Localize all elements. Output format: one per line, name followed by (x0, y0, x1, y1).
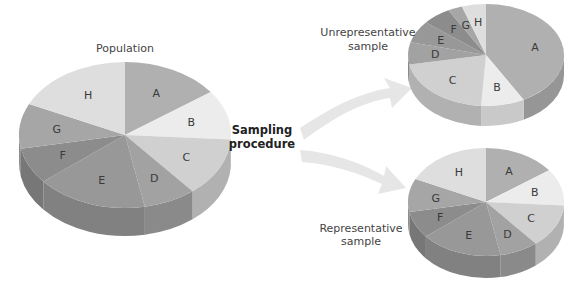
slice-label-b: B (493, 81, 501, 94)
slice-label-d: D (431, 48, 439, 61)
representative-pie: ABCDEFGH (408, 148, 564, 278)
slice-label-d: D (150, 172, 158, 185)
slice-label-a: A (531, 41, 539, 54)
sampling-procedure-label-2: procedure (229, 137, 296, 151)
slice-label-d: D (503, 228, 511, 241)
sampling-diagram: ABCDEFGH ABCDEFGH ABCDEFGH Population Sa… (0, 0, 580, 285)
arrow-to-unrepresentative-icon (300, 78, 412, 140)
population-pie: ABCDEFGH (19, 62, 231, 236)
slice-label-f: F (451, 23, 457, 36)
sampling-procedure-label-1: Sampling (232, 123, 293, 137)
representative-title-2: sample (341, 235, 381, 248)
slice-label-g: G (52, 123, 61, 136)
slice-label-h: H (474, 16, 482, 29)
population-title: Population (96, 42, 154, 55)
slice-label-g: G (431, 192, 440, 205)
slice-label-h: H (84, 89, 92, 102)
slice-label-e: E (465, 229, 472, 242)
slice-label-a: A (153, 87, 161, 100)
slice-label-f: F (437, 211, 443, 224)
slice-label-h: H (455, 166, 463, 179)
arrow-to-representative-icon (300, 150, 406, 194)
slice-label-b: B (187, 116, 195, 129)
representative-title-1: Representative (319, 222, 402, 235)
slice-label-e: E (437, 34, 444, 47)
slice-label-e: E (98, 174, 105, 187)
slice-label-f: F (59, 149, 65, 162)
slice-label-g: G (462, 19, 471, 32)
unrepresentative-pie: ABCDEFGH (408, 4, 564, 126)
slice-label-c: C (449, 74, 457, 87)
slice-label-c: C (183, 151, 191, 164)
unrepresentative-title-1: Unrepresentative (320, 26, 416, 39)
slice-label-a: A (505, 165, 513, 178)
slice-label-c: C (527, 212, 535, 225)
unrepresentative-title-2: sample (348, 40, 388, 53)
slice-label-b: B (531, 186, 539, 199)
